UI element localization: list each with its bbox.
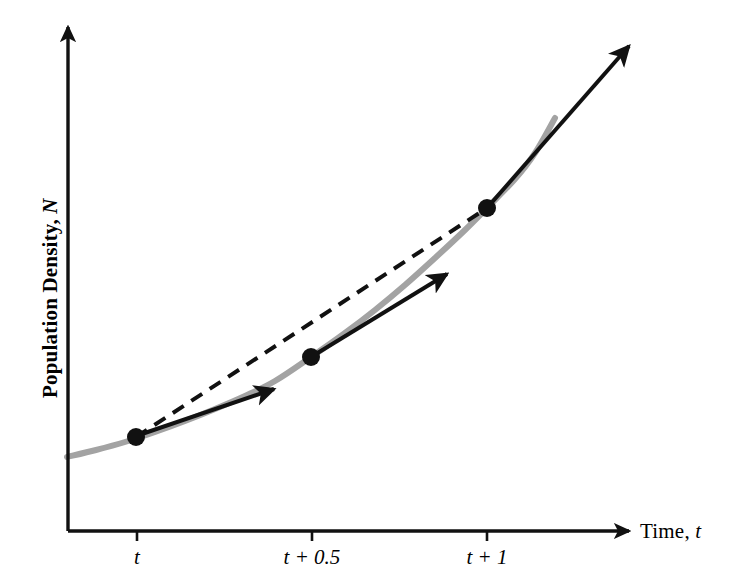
y-axis-title-text: Population Density, [38, 214, 62, 398]
x-axis-title: Time, t [640, 519, 701, 544]
growth-curve-group [67, 118, 555, 457]
secant-line-group [136, 208, 487, 437]
tangent-arrow-at-t [136, 389, 274, 436]
figure-root: Population Density, N Time, t tt + 0.5t … [0, 0, 729, 588]
x-tick-label-tick-t: t [134, 545, 140, 570]
growth-curve [67, 118, 555, 457]
y-axis-title-symbol: N [38, 198, 62, 213]
x-tick-label-tick-t-half: t + 0.5 [284, 545, 341, 570]
x-axis-title-text: Time, [640, 519, 695, 543]
point-at-t-one [478, 199, 496, 217]
x-tick-label-tick-t-one: t + 1 [466, 545, 507, 570]
tangent-arrow-group [136, 46, 629, 436]
x-axis-title-symbol: t [695, 519, 701, 543]
tangent-arrow-at-t-one [487, 46, 629, 208]
secant-line-dashed [136, 208, 487, 437]
point-at-t-half [302, 348, 320, 366]
y-axis-title: Population Density, N [38, 198, 63, 398]
axes-group [68, 27, 629, 541]
point-at-t [127, 428, 145, 446]
plot-canvas [0, 0, 729, 588]
tangent-arrow-at-t-half [311, 274, 447, 357]
